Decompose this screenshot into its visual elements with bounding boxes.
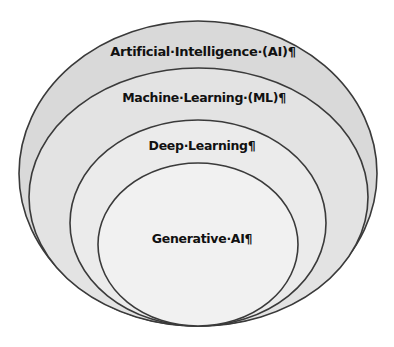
nested-ai-diagram: Artificial·Intelligence·(AI)¶ Machine·Le… [0,0,394,347]
label-generative-ai: Generative·AI¶ [152,231,252,246]
label-artificial-intelligence: Artificial·Intelligence·(AI)¶ [110,44,295,59]
label-deep-learning: Deep·Learning¶ [149,138,256,153]
label-machine-learning: Machine·Learning·(ML)¶ [122,90,286,105]
